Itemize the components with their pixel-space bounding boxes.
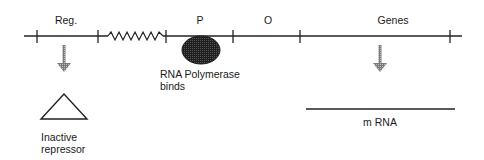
dna-strand [24, 32, 462, 40]
repressor-label-line1: Inactive [41, 131, 77, 143]
polymerase-label-line2: binds [160, 80, 185, 92]
repressor-label-line2: repressor [41, 143, 85, 155]
region-label-operator: O [264, 14, 272, 26]
mrna-label: m RNA [363, 116, 397, 128]
region-label-genes: Genes [378, 14, 409, 26]
spacer-zigzag [108, 32, 163, 40]
region-label-reg: Reg. [55, 14, 77, 26]
arrow-down-icon [57, 45, 71, 72]
polymerase-label-line1: RNA Polymerase [160, 68, 240, 80]
arrow-down-icon [373, 45, 387, 72]
inactive-repressor-triangle [41, 94, 87, 119]
rna-polymerase-ellipse [182, 36, 220, 64]
region-label-promoter: P [196, 14, 203, 26]
